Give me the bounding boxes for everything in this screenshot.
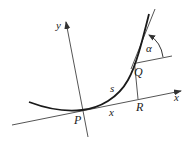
arc-length-s-label: s <box>110 82 114 94</box>
angle-alpha-label: α <box>146 42 152 54</box>
curve <box>29 14 149 111</box>
diagram-canvas: y x P Q R s x α <box>0 0 195 150</box>
y-axis-label: y <box>55 19 61 31</box>
x-axis-label: x <box>173 91 179 103</box>
point-P-label: P <box>73 113 82 127</box>
x-axis-line <box>12 91 181 125</box>
point-Q-label: Q <box>134 65 143 79</box>
segment-x-label: x <box>108 106 114 118</box>
parallel-line-through-Q <box>134 56 172 64</box>
point-R-label: R <box>135 100 144 114</box>
